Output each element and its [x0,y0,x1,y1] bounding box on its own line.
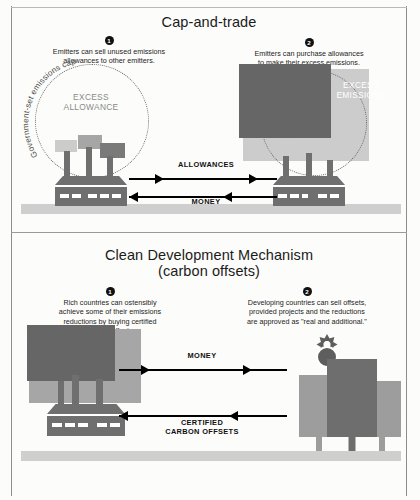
cdm-callout-2-line-2: provided projects and the reductions [209,307,405,316]
callout-badge-1: 1 [105,36,114,45]
arrow-shaft [119,415,287,417]
cdm-callout-badge-2: 2 [303,287,312,296]
factory-window [78,423,88,427]
excess-emissions-line-1: EXCESS [343,80,379,90]
cdm-factory-body [47,416,125,436]
cdm-title: Clean Development Mechanism (carbon offs… [11,247,407,279]
factory-window [278,194,287,198]
arrow-right-icon [243,365,252,375]
cdm-money-arrow [119,363,287,377]
allowances-arrow [129,172,277,186]
arrow-left-icon [119,411,128,421]
money-arrow-top-label: MONEY [161,198,251,207]
tree-icon-center [327,359,377,451]
excess-allowance-label: EXCESS ALLOWANCE [53,92,129,113]
callout-1-line-1: Emitters can sell unused emissions [19,47,199,56]
factory-body-left [55,187,127,206]
allowances-arrow-label: ALLOWANCES [161,161,251,170]
factory-window [318,194,327,198]
diagram-page: Cap-and-trade 1 Emitters can sell unused… [0,0,420,500]
factory-body-right [273,187,345,206]
excess-allowance-line-2: ALLOWANCE [64,102,119,112]
cdm-callout-2-right: 2 Developing countries can sell offsets,… [209,287,405,326]
clean-development-mechanism-panel: Clean Development Mechanism (carbon offs… [11,233,407,495]
cdm-title-line-1: Clean Development Mechanism [11,247,407,263]
factory-roof-right [273,176,345,185]
factory-window [302,194,308,198]
cdm-callout-1-line-2: achieve some of their emissions [17,307,203,316]
factory-window [330,194,339,198]
cdm-callout-badge-1: 1 [106,287,115,296]
factory-window [110,423,120,427]
arrow-right-icon [249,174,258,184]
factory-roof-left [55,176,127,185]
excess-emissions-label: EXCESS EMISSIONS [325,80,397,101]
factory-window [100,194,109,198]
arrow-right-icon [141,365,150,375]
cdm-money-arrow-label: MONEY [157,352,247,361]
cdm-callout-2-line-1: Developing countries can sell offsets, [209,298,405,307]
cdm-offsets-label-line-2: CARBON OFFSETS [165,427,238,436]
cdm-callout-1-line-1: Rich countries can ostensibly [17,298,203,307]
factory-window [52,423,62,427]
factory-window [88,194,97,198]
cap-and-trade-title: Cap-and-trade [11,14,407,30]
smokestack-1-left [64,151,70,179]
excess-emissions-line-2: EMISSIONS [336,90,385,100]
cdm-smokestack-3 [96,379,103,407]
factory-window [112,194,121,198]
ground-strip-bottom [21,451,401,461]
cdm-title-line-2: (carbon offsets) [11,263,407,279]
excess-allowance-line-1: EXCESS [73,92,109,102]
smokestack-2-left [86,147,92,179]
cdm-factory-roof [47,404,125,414]
cdm-offsets-arrow-label: CERTIFIED CARBON OFFSETS [147,419,257,436]
callout-1-line-2: allowances to other emitters. [19,56,199,65]
arrow-left-icon [129,192,138,202]
cap-and-trade-panel: Cap-and-trade 1 Emitters can sell unused… [11,8,407,232]
cdm-callout-2-line-3: are approved as "real and additional." [209,317,405,326]
factory-window [60,194,69,198]
callout-2-line-1: Emitters can purchase allowances [219,49,399,58]
cdm-smoke-cloud-dark [27,325,115,381]
factory-left [55,176,127,206]
factory-right [273,176,345,206]
callout-1-left: 1 Emitters can sell unused emissions all… [19,36,199,66]
factory-window [97,423,107,427]
callout-badge-2: 2 [305,38,314,47]
arrow-right-icon [155,174,164,184]
factory-window [65,423,75,427]
factory-window [290,194,299,198]
cdm-factory [47,404,125,436]
factory-window [72,194,81,198]
cdm-smokestack-2 [72,375,79,407]
emissions-cap-circle [35,64,149,178]
